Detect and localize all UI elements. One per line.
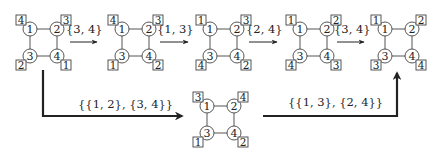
token-label: 1 [110,59,117,71]
token-label: 1 [373,14,380,26]
node-label: 2 [409,23,416,36]
token-box: 4 [16,14,26,26]
permutation-diagram: 1423324114233142112334421122344311223344… [0,0,442,156]
node-label: 1 [27,23,34,36]
node-label: 4 [234,50,241,63]
node-label: 1 [207,23,214,36]
token-label: 3 [195,91,202,103]
token-label: 4 [240,91,247,103]
token-box: 4 [108,14,118,26]
token-label: 1 [195,136,202,148]
token-label: 1 [63,59,70,71]
token-box: 2 [238,136,248,148]
token-label: 3 [333,59,340,71]
token-label: 3 [373,59,380,71]
token-label: 4 [418,59,425,71]
transition-label: {{1, 3}, {2, 4}} [288,95,383,109]
transition-4: {3, 4} [334,22,371,42]
node-label: 1 [119,23,126,36]
token-box: 2 [16,59,26,71]
node-label: 2 [231,100,238,113]
node-label: 4 [54,50,61,63]
token-label: 4 [288,59,295,71]
token-label: 1 [288,14,295,26]
node-label: 3 [207,50,214,63]
node-label: 1 [204,100,211,113]
token-box: 1 [286,14,296,26]
node-label: 2 [146,23,153,36]
transition-2: {1, 3} [157,22,194,42]
token-box: 1 [61,59,71,71]
token-label: 2 [240,136,247,148]
token-box: 4 [196,59,206,71]
token-box: 1 [193,136,203,148]
node-label: 2 [234,23,241,36]
node-label: 3 [27,50,34,63]
token-box: 4 [416,59,426,71]
token-label: 4 [198,59,205,71]
token-label: 2 [155,59,162,71]
node-label: 2 [54,23,61,36]
node-label: 3 [382,50,389,63]
token-label: 1 [198,14,205,26]
node-label: 1 [297,23,304,36]
transition-1: {3, 4} [66,22,103,42]
node-label: 4 [231,127,238,140]
transition-label: {{1, 2}, {3, 4}} [78,97,173,111]
token-label: 4 [18,14,25,26]
transition-3: {2, 4} [246,22,283,42]
transition-5: {{1, 2}, {3, 4}} [43,70,182,116]
node-label: 1 [382,23,389,36]
transition-label: {2, 4} [246,22,283,36]
node-label: 4 [324,50,331,63]
token-label: 2 [18,59,25,71]
token-box: 4 [238,91,248,103]
token-box: 3 [331,59,341,71]
token-label: 2 [243,59,250,71]
node-label: 3 [204,127,211,140]
token-box: 3 [193,91,203,103]
state-graph-s1: 14233241 [16,14,71,71]
node-label: 3 [119,50,126,63]
transition-label: {3, 4} [66,22,103,36]
node-label: 4 [146,50,153,63]
state-graph-s6: 13243142 [193,91,248,148]
token-box: 2 [241,59,251,71]
node-label: 4 [409,50,416,63]
state-graph-s4: 11223443 [286,14,341,71]
node-label: 2 [324,23,331,36]
token-box: 2 [416,14,426,26]
token-box: 1 [108,59,118,71]
token-box: 4 [286,59,296,71]
state-graph-s2: 14233142 [108,14,163,71]
token-label: 4 [110,14,117,26]
token-box: 2 [153,59,163,71]
token-box: 1 [371,14,381,26]
node-label: 3 [297,50,304,63]
state-graph-s5: 11223344 [371,14,426,71]
transition-label: {1, 3} [157,22,194,36]
token-box: 3 [371,59,381,71]
token-label: 2 [418,14,425,26]
transition-label: {3, 4} [334,22,371,36]
transition-6: {{1, 3}, {2, 4}} [263,73,397,116]
token-box: 1 [196,14,206,26]
state-graph-s3: 11233442 [196,14,251,71]
